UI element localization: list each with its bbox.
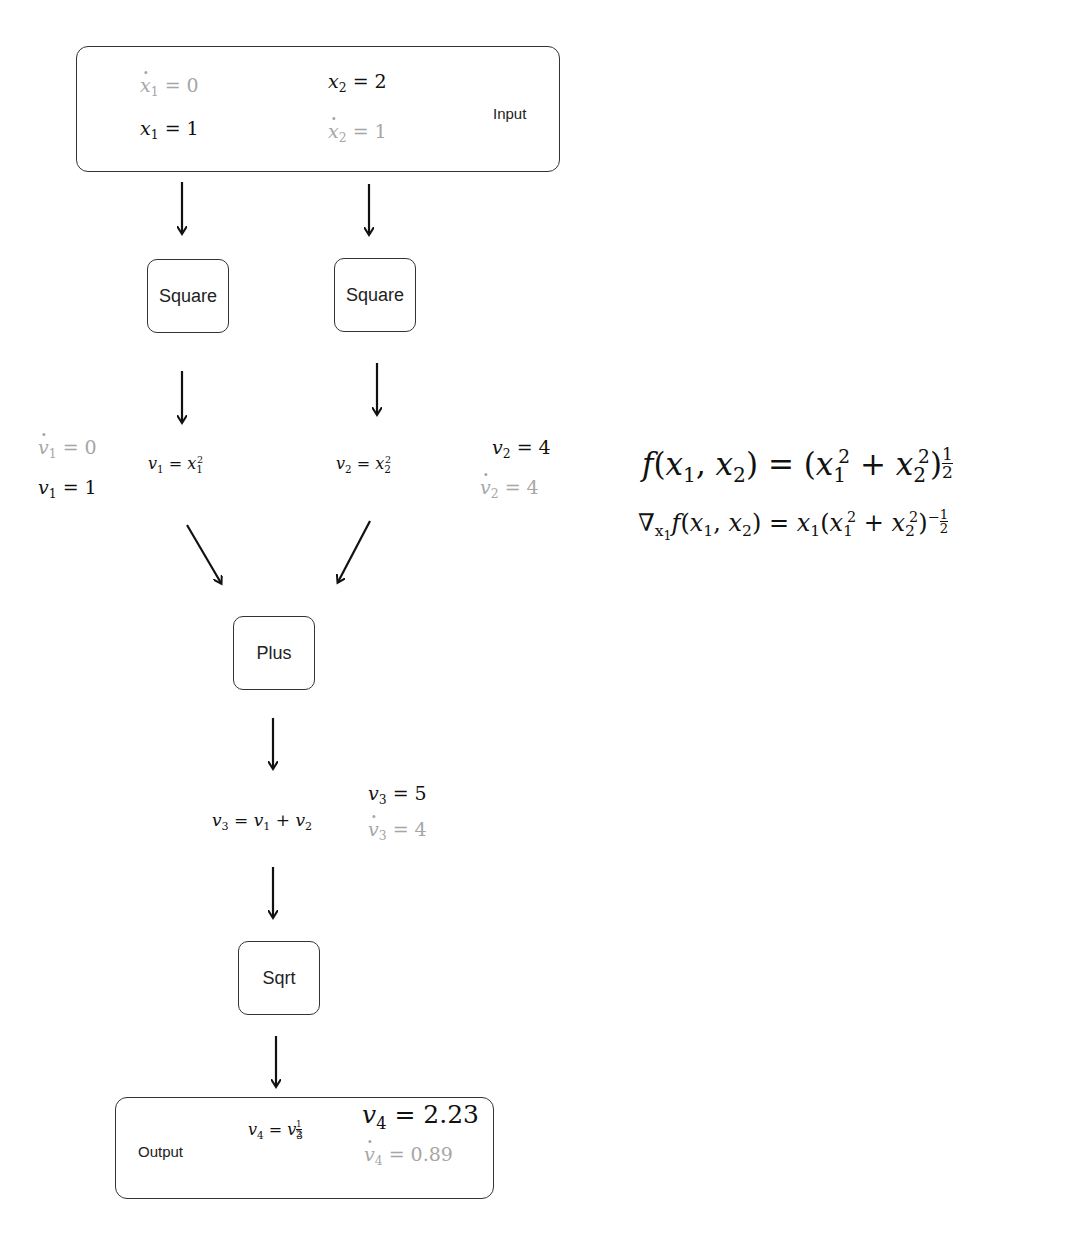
flow-arrows (0, 0, 1085, 1235)
forward-mode-ad-diagram: x1 = 0 x1 = 1 x2 = 2 x2 = 1 Input Square… (0, 0, 1085, 1235)
arrow-v1-to-plus (187, 525, 221, 583)
arrow-v2-to-plus (338, 521, 370, 582)
